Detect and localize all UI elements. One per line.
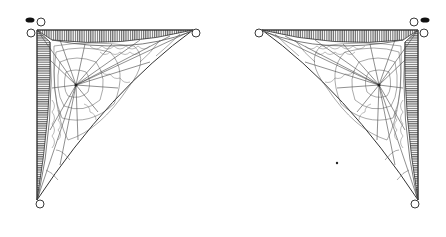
ink-dot <box>336 162 338 164</box>
spiderweb-corner-ornaments <box>0 0 446 237</box>
right-corner-ornament <box>255 17 430 208</box>
left-corner-ornament <box>26 17 201 208</box>
